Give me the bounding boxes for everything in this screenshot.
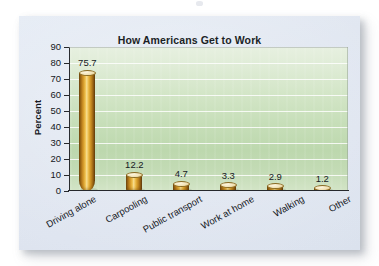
bar-value-label: 2.9 xyxy=(269,172,282,182)
y-tick-50 xyxy=(64,111,69,112)
y-tick-label-0: 0 xyxy=(37,186,61,196)
plot-paper-texture xyxy=(70,47,348,191)
y-tick-label-90: 90 xyxy=(37,42,61,52)
x-label-work-at-home: Work at home xyxy=(160,194,256,253)
y-tick-label-30: 30 xyxy=(37,138,61,148)
y-tick-30 xyxy=(64,143,69,144)
y-tick-label-80: 80 xyxy=(37,58,61,68)
y-tick-90 xyxy=(64,47,69,48)
bar-top-ellipse xyxy=(126,172,143,178)
bar-top-ellipse xyxy=(267,183,284,189)
bar-top-ellipse xyxy=(173,181,190,187)
chart-figure-card: How Americans Get to Work Percent 90 80 … xyxy=(19,16,360,250)
y-tick-label-60: 60 xyxy=(37,90,61,100)
bar-value-label: 3.3 xyxy=(222,171,235,181)
gridlines xyxy=(70,47,348,191)
plot-area: 75.7 12.2 4.7 3.3 xyxy=(69,47,348,191)
y-tick-80 xyxy=(64,63,69,64)
bar-top-ellipse xyxy=(79,70,96,76)
plot-frame-right xyxy=(347,47,348,191)
scan-artifact-speck xyxy=(196,1,203,6)
y-tick-label-50: 50 xyxy=(37,106,61,116)
bar-value-label: 12.2 xyxy=(125,160,143,170)
y-tick-60 xyxy=(64,95,69,96)
y-tick-20 xyxy=(64,159,69,160)
y-tick-label-10: 10 xyxy=(37,170,61,180)
bar-value-label: 75.7 xyxy=(78,58,96,68)
bar-carpooling[interactable]: 12.2 xyxy=(126,172,142,192)
y-tick-40 xyxy=(64,127,69,128)
x-label-public-transport: Public transport xyxy=(106,194,203,254)
bar-value-label: 4.7 xyxy=(175,169,188,179)
x-axis-line xyxy=(68,190,349,191)
bar-top-ellipse xyxy=(220,182,237,188)
bar-body xyxy=(79,73,95,191)
y-tick-10 xyxy=(64,175,69,176)
bar-value-label: 1.2 xyxy=(316,174,329,184)
chart-title: How Americans Get to Work xyxy=(19,34,360,46)
plot-frame-top xyxy=(69,47,348,48)
y-tick-label-20: 20 xyxy=(37,154,61,164)
bar-driving-alone[interactable]: 75.7 xyxy=(79,70,95,191)
y-tick-label-40: 40 xyxy=(37,122,61,132)
scan-page: How Americans Get to Work Percent 90 80 … xyxy=(0,0,379,266)
y-tick-70 xyxy=(64,79,69,80)
y-tick-label-70: 70 xyxy=(37,74,61,84)
